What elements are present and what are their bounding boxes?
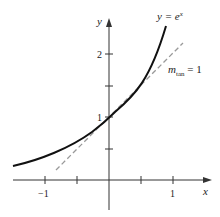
x-tick-label-1: 1 [170,188,175,199]
x-tick-label-neg1: −1 [38,188,49,199]
y-axis-label: y [96,15,102,27]
y-tick-label-2: 2 [97,49,102,60]
chart: x y −1 1 1 2 y = ex mtan = 1 [0,0,220,217]
exp-curve [13,26,166,166]
tangent-label: mtan = 1 [168,63,202,78]
tangent-line [56,43,183,170]
x-axis-arrow-icon [203,177,212,183]
x-axis-label: x [202,185,208,197]
curve-label: y = ex [156,10,184,22]
y-axis-arrow-icon [106,18,112,27]
y-tick-label-1: 1 [97,112,102,123]
